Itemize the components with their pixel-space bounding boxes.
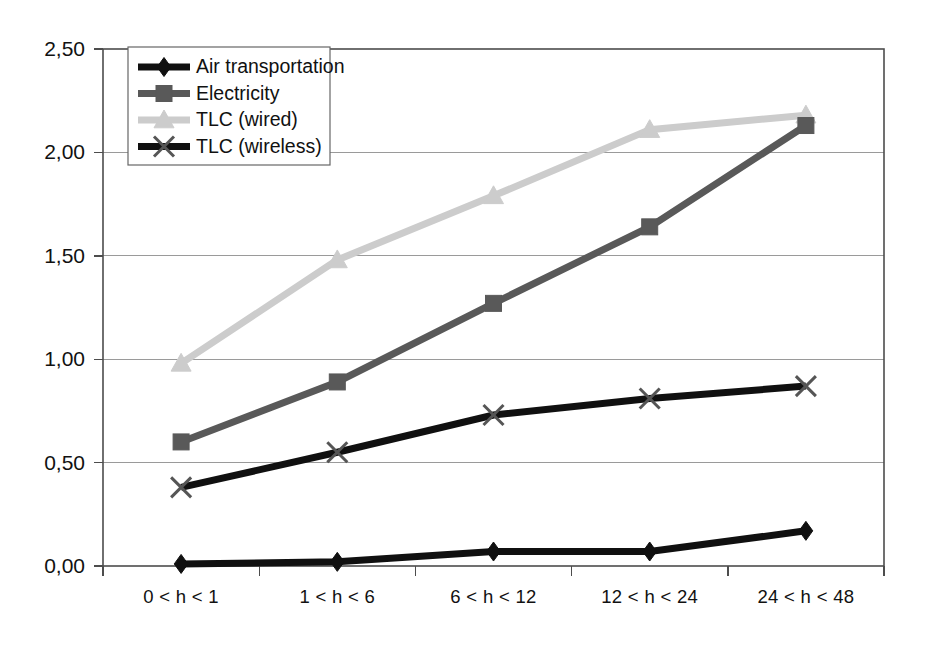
x-axis-tick-label: 24 < h < 48: [757, 586, 854, 607]
y-axis-tick-label: 2,50: [44, 37, 85, 60]
data-point-marker: [642, 219, 658, 235]
y-axis-tick-label: 1,00: [44, 347, 85, 370]
x-axis-tick-label: 6 < h < 12: [450, 586, 536, 607]
line-chart: 0,000,501,001,502,002,50 0 < h < 11 < h …: [0, 0, 928, 652]
data-point-marker: [173, 434, 189, 450]
x-axis-tick-label: 12 < h < 24: [601, 586, 698, 607]
legend-item-label: TLC (wired): [196, 108, 298, 130]
data-point-marker: [486, 295, 502, 311]
y-axis-tick-label: 2,00: [44, 140, 85, 163]
chart-container: 0,000,501,001,502,002,50 0 < h < 11 < h …: [0, 0, 928, 652]
y-axis-tick-label: 1,50: [44, 244, 85, 267]
legend-item-label: TLC (wireless): [196, 135, 322, 157]
data-point-marker: [156, 86, 172, 102]
x-axis-tick-label: 1 < h < 6: [299, 586, 375, 607]
y-axis-tick-label: 0,50: [44, 451, 85, 474]
data-point-marker: [329, 374, 345, 390]
y-axis-tick-label: 0,00: [44, 554, 85, 577]
legend-item-label: Air transportation: [196, 55, 345, 77]
legend-item-label: Electricity: [196, 82, 280, 104]
data-point-marker: [798, 118, 814, 134]
chart-legend: Air transportationElectricityTLC (wired)…: [128, 47, 345, 165]
x-axis-tick-label: 0 < h < 1: [143, 586, 219, 607]
